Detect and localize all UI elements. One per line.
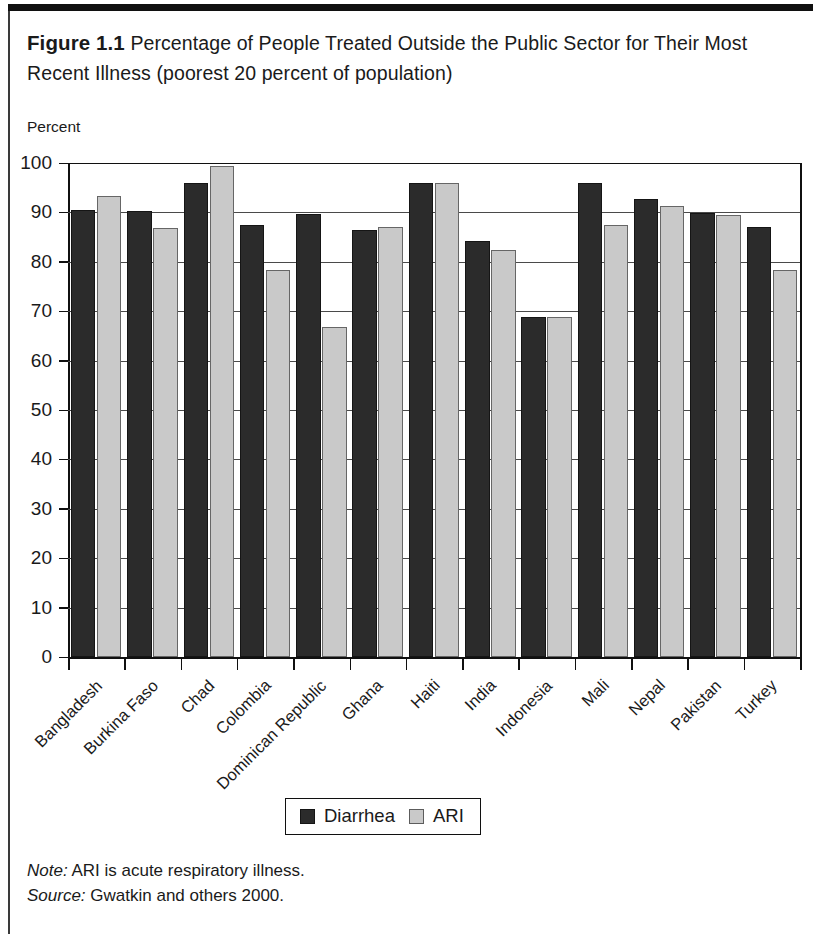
- bar-ari-ghana: [378, 227, 403, 657]
- x-tick-label: Colombia: [212, 676, 275, 739]
- gridline: [68, 459, 800, 460]
- legend-item-diarrhea: Diarrhea: [300, 805, 395, 827]
- gridline: [68, 361, 800, 362]
- y-tick-mark: [59, 459, 68, 461]
- figure-heading: Figure 1.1 Percentage of People Treated …: [27, 28, 787, 88]
- plot-right-border: [800, 163, 802, 657]
- figure-number: Figure 1.1: [27, 31, 125, 54]
- bar-ari-mali: [604, 225, 629, 657]
- source-lead: Source:: [27, 886, 86, 905]
- x-tick-label: Chad: [177, 676, 218, 717]
- page-top-rule: [8, 4, 813, 11]
- x-tick-mark: [575, 659, 577, 670]
- gridline: [68, 410, 800, 411]
- x-tick-mark: [124, 659, 126, 670]
- x-tick-mark: [744, 659, 746, 670]
- x-tick-label: India: [461, 676, 500, 715]
- x-tick-label: Turkey: [732, 676, 781, 725]
- x-tick-mark: [462, 659, 464, 670]
- y-tick-mark: [59, 410, 68, 412]
- gridline: [68, 608, 800, 609]
- bar-ari-pakistan: [716, 215, 741, 657]
- y-tick-mark: [59, 261, 68, 263]
- x-axis-line: [68, 657, 802, 659]
- bar-diarrhea-india: [465, 241, 490, 657]
- bar-diarrhea-pakistan: [690, 213, 715, 657]
- bar-diarrhea-mali: [578, 183, 603, 657]
- x-tick-mark: [687, 659, 689, 670]
- bar-diarrhea-dominican-republic: [296, 214, 321, 657]
- x-tick-label: Bangladesh: [31, 676, 106, 751]
- x-tick-label: Ghana: [338, 676, 386, 724]
- bar-diarrhea-nepal: [634, 199, 659, 657]
- y-tick-mark: [59, 607, 68, 609]
- bar-ari-dominican-republic: [322, 327, 347, 657]
- y-tick-mark: [59, 508, 68, 510]
- y-tick-mark: [59, 212, 68, 214]
- bar-ari-haiti: [435, 183, 460, 657]
- chart-legend: Diarrhea ARI: [285, 798, 481, 835]
- page-left-rule: [8, 11, 10, 934]
- figure-footnotes: Note: ARI is acute respiratory illness. …: [27, 858, 305, 908]
- x-tick-mark: [68, 659, 70, 670]
- x-tick-label: Mali: [578, 676, 613, 711]
- gridline: [68, 262, 800, 263]
- bar-chart: 0102030405060708090100 BangladeshBurkina…: [0, 0, 821, 934]
- x-tick-label: Haiti: [407, 676, 444, 713]
- bar-diarrhea-haiti: [409, 183, 434, 657]
- x-tick-label: Indonesia: [492, 676, 556, 740]
- note-line: Note: ARI is acute respiratory illness.: [27, 858, 305, 883]
- x-tick-mark: [293, 659, 295, 670]
- gridline: [68, 558, 800, 559]
- x-tick-label: Dominican Republic: [213, 676, 330, 793]
- legend-label-diarrhea: Diarrhea: [324, 805, 395, 827]
- bar-ari-bangladesh: [97, 196, 122, 657]
- note-lead: Note:: [27, 861, 68, 880]
- legend-swatch-diarrhea-icon: [300, 809, 315, 824]
- x-tick-mark: [181, 659, 183, 670]
- y-tick-mark: [59, 657, 68, 659]
- bar-diarrhea-chad: [184, 183, 209, 657]
- bar-ari-indonesia: [547, 317, 572, 657]
- x-tick-mark: [631, 659, 633, 670]
- source-line: Source: Gwatkin and others 2000.: [27, 883, 305, 908]
- x-tick-label: Pakistan: [667, 676, 725, 734]
- gridline: [68, 509, 800, 510]
- bar-diarrhea-bangladesh: [71, 210, 96, 657]
- y-tick-mark: [59, 558, 68, 560]
- bar-diarrhea-turkey: [747, 227, 772, 657]
- page-title: Percentage of People Treated Outside the…: [27, 32, 747, 84]
- bar-ari-burkina-faso: [153, 228, 178, 657]
- x-tick-mark: [406, 659, 408, 670]
- figure-page: Figure 1.1 Percentage of People Treated …: [0, 0, 821, 934]
- y-axis-unit-label: Percent: [27, 118, 80, 136]
- bar-ari-nepal: [660, 206, 685, 657]
- source-text: Gwatkin and others 2000.: [86, 886, 284, 905]
- gridline: [68, 311, 800, 312]
- bar-diarrhea-indonesia: [521, 317, 546, 657]
- legend-item-ari: ARI: [409, 805, 464, 827]
- bar-ari-turkey: [773, 270, 798, 657]
- gridline: [68, 212, 800, 213]
- y-tick-mark: [59, 360, 68, 362]
- bar-ari-colombia: [266, 270, 291, 657]
- plot-area: [68, 163, 802, 658]
- x-tick-label: Burkina Faso: [80, 676, 162, 758]
- x-tick-mark: [800, 659, 802, 670]
- y-tick-mark: [59, 311, 68, 313]
- bar-diarrhea-ghana: [352, 230, 377, 657]
- bar-ari-chad: [210, 166, 235, 657]
- bar-diarrhea-burkina-faso: [127, 211, 152, 657]
- bar-diarrhea-colombia: [240, 225, 265, 657]
- legend-swatch-ari-icon: [409, 809, 424, 824]
- x-tick-mark: [518, 659, 520, 670]
- x-tick-mark: [237, 659, 239, 670]
- legend-label-ari: ARI: [433, 805, 464, 827]
- note-text: ARI is acute respiratory illness.: [68, 861, 305, 880]
- x-tick-label: Nepal: [625, 676, 669, 720]
- x-tick-mark: [350, 659, 352, 670]
- y-tick-mark: [59, 163, 68, 165]
- bar-ari-india: [491, 250, 516, 657]
